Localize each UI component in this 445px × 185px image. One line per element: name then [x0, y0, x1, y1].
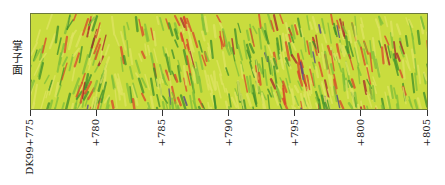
x-tick — [30, 110, 31, 116]
y-axis-label: 掌子面 — [6, 40, 24, 90]
x-tick — [294, 110, 295, 116]
x-tick — [228, 110, 229, 116]
x-tick-label: +780 — [90, 119, 101, 146]
radar-profile-image — [31, 14, 428, 110]
x-tick — [96, 110, 97, 116]
x-tick-label: DK99+775 — [24, 119, 35, 175]
x-tick — [427, 110, 428, 116]
x-tick-label: +785 — [156, 119, 167, 146]
x-tick — [162, 110, 163, 116]
x-tick-label: +800 — [355, 119, 366, 146]
radar-profile-panel — [30, 13, 428, 110]
x-tick — [360, 110, 361, 116]
x-tick-label: +790 — [223, 119, 234, 146]
x-tick-label: +795 — [289, 119, 300, 146]
x-tick-label: +805 — [421, 119, 432, 146]
